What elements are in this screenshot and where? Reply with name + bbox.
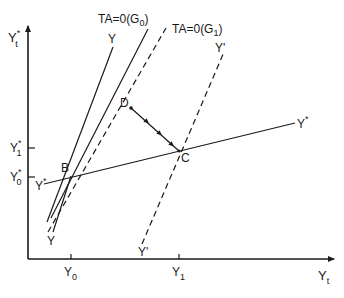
x-axis-label: Yt <box>318 268 330 286</box>
x-tick-label-y0: Y0 <box>64 265 77 282</box>
macro-adjustment-diagram: Y*t Yt Y0 Y1 Y*1 Y*0 Y Y TA=0(G0) TA=0(G… <box>0 0 344 298</box>
point-d-label: D <box>120 96 129 110</box>
ta-g1-line <box>48 28 166 232</box>
ta-g0-line <box>51 29 148 218</box>
y-prime-bottom-label: Y' <box>138 245 148 259</box>
y-tick-label-y0-star: Y*0 <box>10 167 22 187</box>
y-star-right-label: Y* <box>297 114 309 131</box>
x-tick-label-y1: Y1 <box>172 265 185 282</box>
point-c-label: C <box>181 151 190 165</box>
ta-g0-label: TA=0(G0) <box>98 12 148 28</box>
y-line-bottom-label: Y <box>47 234 55 248</box>
y-axis-label: Y*t <box>8 28 21 49</box>
ta-g1-label: TA=0(G1) <box>172 22 222 38</box>
y-tick-label-y1-star: Y*1 <box>10 138 22 158</box>
y-line <box>47 47 113 222</box>
y-prime-line <box>142 52 224 244</box>
adjustment-path <box>129 106 180 152</box>
y-line-top-label: Y <box>108 32 116 46</box>
y-prime-top-label: Y' <box>215 41 225 55</box>
point-b-label: B <box>61 161 69 175</box>
y-star-left-label: Y* <box>35 176 47 193</box>
y-star-line <box>44 123 295 184</box>
